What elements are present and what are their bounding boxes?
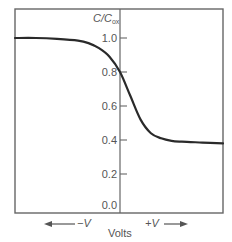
arrow-right-icon [180, 221, 188, 227]
y-tick-label: 0.6 [102, 100, 117, 112]
y-tick-label: 0.4 [102, 134, 117, 146]
svg-text:−V: −V [77, 217, 92, 229]
y-axis-label: C/Cox [93, 12, 120, 25]
y-tick-label: 0.2 [102, 168, 117, 180]
x-axis-label: Volts [108, 227, 132, 239]
svg-text:+V: +V [145, 217, 160, 229]
y-tick-label: 0.0 [102, 199, 117, 211]
negative-voltage-indicator: −V [44, 217, 92, 229]
y-tick-label: 1.0 [102, 32, 117, 44]
positive-voltage-indicator: +V [145, 217, 188, 229]
plot-frame [15, 9, 223, 213]
y-ticks: 0.00.20.40.60.81.0 [102, 32, 127, 211]
y-tick-label: 0.8 [102, 66, 117, 78]
cv-curve-line [15, 38, 223, 143]
cv-curve-chart: 0.00.20.40.60.81.0 C/Cox −V +V Volts [0, 0, 232, 242]
arrow-left-icon [44, 221, 52, 227]
